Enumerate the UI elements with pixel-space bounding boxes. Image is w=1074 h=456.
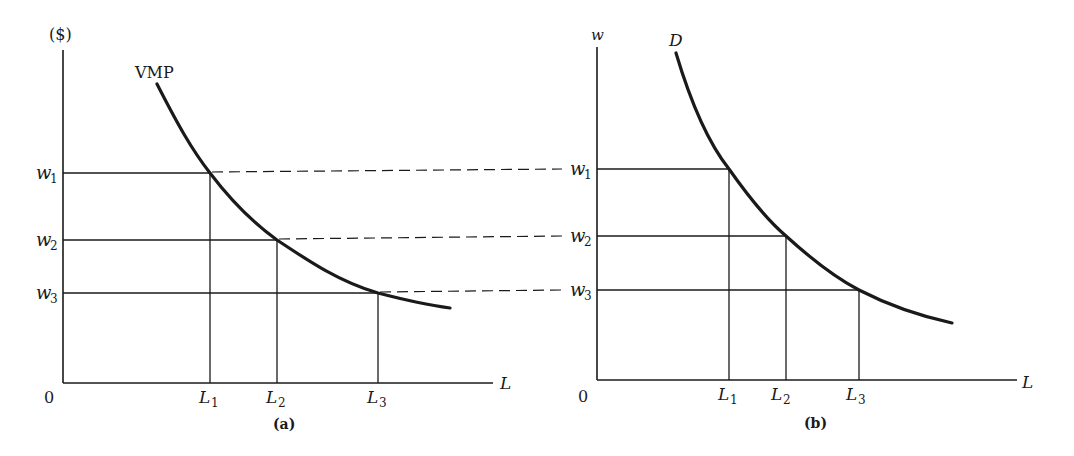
panel-b: w L 0 D w 1 w 2 w 3 L 1 [570, 26, 1033, 431]
panel-b-w2-label: w 2 [570, 225, 592, 249]
panel-a-w1-label: w 1 [36, 162, 58, 186]
svg-text:3: 3 [50, 292, 58, 306]
svg-text:L: L [717, 384, 729, 404]
labor-demand-diagram: ($) L 0 VMP w 1 w 2 w 3 L 1 [0, 0, 1074, 456]
panel-a-origin-label: 0 [44, 388, 54, 407]
panel-b-y-axis-label: w [591, 26, 604, 44]
panel-a-w3-label: w 3 [36, 282, 58, 306]
svg-text:3: 3 [858, 393, 866, 407]
vmp-curve-label: VMP [134, 63, 174, 82]
svg-text:2: 2 [50, 239, 58, 253]
svg-text:1: 1 [211, 396, 219, 410]
w2-dashed-connector [279, 236, 562, 239]
svg-text:1: 1 [730, 393, 738, 407]
w3-dashed-connector [380, 290, 562, 292]
svg-text:1: 1 [584, 168, 592, 182]
svg-text:1: 1 [50, 172, 58, 186]
svg-text:L: L [198, 387, 210, 407]
panel-a-caption: (a) [273, 416, 295, 432]
panel-b-w3-label: w 3 [570, 279, 592, 303]
panel-a-l3-label: L 3 [366, 387, 387, 410]
vmp-curve [157, 84, 450, 308]
panel-a-y-axis-label: ($) [49, 25, 72, 44]
demand-curve [676, 53, 952, 323]
w1-dashed-connector [212, 169, 562, 172]
svg-text:3: 3 [584, 289, 592, 303]
svg-text:L: L [770, 384, 782, 404]
panel-b-w1-label: w 1 [570, 158, 592, 182]
panel-a: ($) L 0 VMP w 1 w 2 w 3 L 1 [36, 25, 511, 432]
svg-text:L: L [845, 384, 857, 404]
panel-a-w2-label: w 2 [36, 229, 58, 253]
svg-text:L: L [366, 387, 378, 407]
panel-b-l2-label: L 2 [770, 384, 791, 407]
svg-text:2: 2 [278, 396, 286, 410]
panel-b-caption: (b) [804, 415, 827, 431]
panel-b-l1-label: L 1 [717, 384, 738, 407]
panel-a-l2-label: L 2 [265, 387, 286, 410]
demand-curve-label: D [668, 30, 683, 50]
svg-text:2: 2 [783, 393, 791, 407]
svg-text:L: L [265, 387, 277, 407]
panel-a-x-axis-label: L [499, 373, 511, 393]
svg-text:2: 2 [584, 235, 592, 249]
panel-b-x-axis-label: L [1021, 372, 1033, 392]
panel-a-l1-label: L 1 [198, 387, 219, 410]
panel-b-origin-label: 0 [578, 387, 588, 406]
panel-b-l3-label: L 3 [845, 384, 866, 407]
svg-text:3: 3 [379, 396, 387, 410]
